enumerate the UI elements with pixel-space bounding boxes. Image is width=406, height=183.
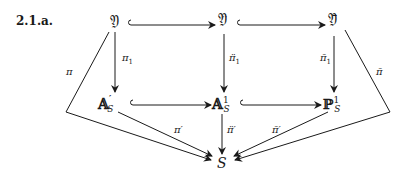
node-y: 𝔜 [110, 14, 119, 28]
label-pi-bar-prime: π̄′ [272, 124, 281, 135]
inclusion-arrow-a1-to-p1 [241, 100, 321, 105]
label-pi1-bar: π̄1 [320, 52, 331, 66]
inclusion-arrow-y-to-yddot [129, 20, 216, 25]
label-pi: π [66, 66, 73, 77]
arrow-pi [66, 32, 211, 160]
arrow-pi-bar [235, 30, 390, 160]
label-pi1-ddot: π̈1 [229, 52, 240, 66]
section-label: 2.1.a. [16, 14, 53, 28]
inclusion-arrow-yddot-to-ybar [238, 20, 326, 25]
node-y-ddot: 𝔜̈ [218, 12, 227, 26]
label-pi-bar: π̄ [376, 66, 383, 77]
label-pi1: π1 [122, 52, 133, 66]
node-p1-s: ℙ1S [323, 96, 345, 114]
node-y-bar: 𝔜̄ [328, 12, 337, 26]
diagram-arrows [0, 0, 406, 183]
arrow-pi-bar-prime [234, 112, 328, 156]
label-pi-prime: π′ [174, 124, 183, 135]
node-a1-s: 𝔸1S [212, 96, 235, 114]
node-s: S [217, 156, 227, 170]
inclusion-arrow-aprime-to-a1 [131, 100, 212, 105]
node-a-prime-s: 𝔸′S [98, 96, 117, 114]
label-pi-ddot-prime: π̈′ [227, 124, 236, 135]
